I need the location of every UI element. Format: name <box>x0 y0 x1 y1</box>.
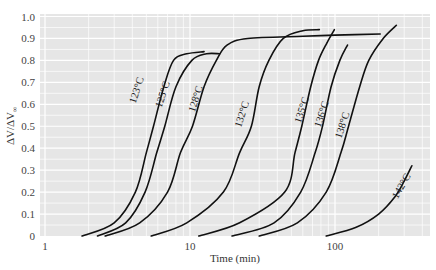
y-tick-label: 0.5 <box>21 120 35 132</box>
y-tick-label: 0.2 <box>21 186 35 198</box>
y-tick-label: 0.8 <box>21 54 35 66</box>
x-tick-label: 10 <box>185 240 197 252</box>
y-tick-label: 0.9 <box>21 32 35 44</box>
y-tick-label: 0.4 <box>21 142 35 154</box>
x-axis-label: Time (min) <box>210 252 260 265</box>
y-axis-ticks: 00.10.20.30.40.50.60.70.80.91.0 <box>21 11 35 243</box>
x-axis-ticks: 110100 <box>42 240 344 252</box>
y-tick-label: 0.1 <box>21 208 35 220</box>
x-tick-label: 100 <box>327 240 344 252</box>
x-tick-label: 1 <box>42 240 48 252</box>
y-tick-label: 0.3 <box>21 164 35 176</box>
y-tick-label: 0.7 <box>21 76 35 88</box>
y-tick-label: 0 <box>30 230 36 242</box>
y-tick-label: 1.0 <box>21 11 35 23</box>
y-tick-label: 0.6 <box>21 98 35 110</box>
y-axis-label: ΔV/ΔV∞ <box>4 107 19 145</box>
chart: 00.10.20.30.40.50.60.70.80.91.0 110100 1… <box>0 0 436 270</box>
